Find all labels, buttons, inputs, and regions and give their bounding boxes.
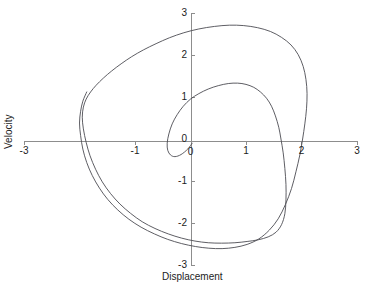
y-axis-title: Velocity (4, 115, 14, 149)
axes-group (24, 13, 357, 265)
y-tick-label: 3 (167, 8, 187, 18)
y-tick-label: -3 (167, 260, 187, 270)
x-axis-title: Displacement (162, 272, 223, 282)
trajectory-curve (80, 25, 308, 249)
x-tick-label: -1 (125, 146, 145, 156)
trajectory-group (80, 25, 308, 249)
y-tick-label: 2 (167, 50, 187, 60)
y-tick-label: 1 (167, 92, 187, 102)
x-tick-label: 3 (347, 146, 367, 156)
y-tick-label: -2 (167, 218, 187, 228)
x-tick-label: -3 (14, 146, 34, 156)
x-tick-label: 1 (236, 146, 256, 156)
phase-plane-chart: -3-101233210-1-2-3 Displacement Velocity (0, 0, 374, 294)
y-tick-label: 0 (167, 134, 187, 144)
x-tick-label: 0 (181, 147, 201, 157)
y-tick-label: -1 (167, 176, 187, 186)
x-tick-label: 2 (292, 146, 312, 156)
